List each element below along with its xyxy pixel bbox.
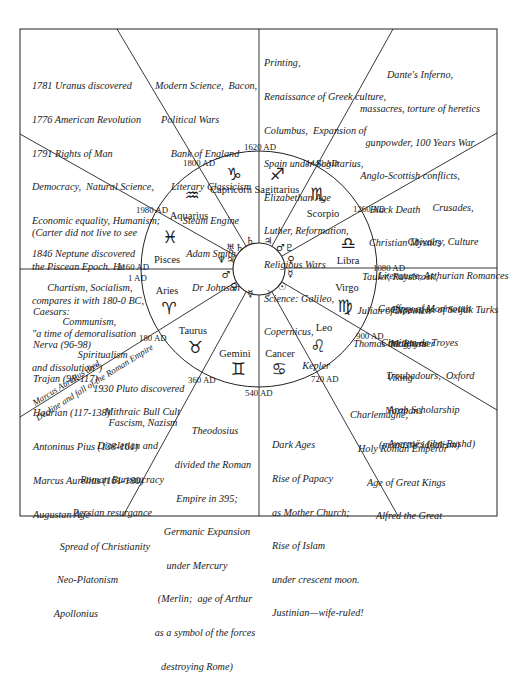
era-line: Antoninus Pius (138-161) bbox=[33, 441, 144, 452]
era-line: Viking bbox=[382, 372, 498, 383]
era-line: Chivalry, Culture bbox=[378, 236, 498, 247]
era-line: destroying Rome) bbox=[150, 661, 260, 672]
era-line: Neo-Platonism bbox=[40, 574, 180, 585]
era-line: and dissolution") bbox=[32, 362, 144, 373]
era-line: as Mother Church; bbox=[272, 507, 364, 518]
gemini-icon: ♊ bbox=[230, 359, 245, 379]
era-line: Steam Engine bbox=[155, 215, 255, 226]
era-cancer-text: Dark Ages Rise of Papacy as Mother Churc… bbox=[272, 417, 364, 641]
era-line: Apollonius bbox=[40, 608, 180, 619]
era-line: under crescent moon. bbox=[272, 574, 364, 585]
era-line: Dark Ages bbox=[272, 439, 364, 450]
era-line: Alfred the Great bbox=[350, 510, 448, 521]
era-line: Rise of Islam bbox=[272, 540, 364, 551]
era-line: gunpowder, 100 Years War bbox=[340, 137, 500, 148]
era-line: Literature, Arthurian Romances bbox=[378, 270, 498, 281]
era-pisces-text: (Carter did not live to see the Piscean … bbox=[32, 205, 144, 395]
era-line: "a time of demoralisation bbox=[32, 328, 144, 339]
era-line: massacres, torture of heretics bbox=[340, 103, 500, 114]
era-line: Political Wars bbox=[155, 114, 255, 125]
taurus-icon: ♉ bbox=[187, 337, 202, 357]
era-line: Expansion of Seljuk Turks bbox=[382, 304, 498, 315]
era-line: Dr Johnson bbox=[155, 282, 255, 293]
era-line: Bank of England bbox=[155, 148, 255, 159]
era-line: Adam Smith bbox=[155, 248, 255, 259]
era-line: Dante's Inferno, bbox=[340, 69, 500, 80]
era-line: Rise of Papacy bbox=[272, 473, 364, 484]
era-line: Modern Science, Bacon, bbox=[155, 80, 255, 91]
era-line: Justinian—wife-ruled! bbox=[272, 607, 364, 618]
era-line: Marcus Aurelius (161-180) bbox=[33, 475, 144, 486]
era-capricorn-text: Modern Science, Bacon, Political Wars Ba… bbox=[155, 58, 255, 316]
era-line: Augustan Age bbox=[33, 509, 144, 520]
era-line: the Piscean Epoch. He bbox=[32, 261, 144, 272]
sign-gemini: Gemini bbox=[219, 348, 251, 359]
era-line: Hadrian (117-138) bbox=[33, 407, 144, 418]
era-line: Holy Roman Emperor bbox=[350, 443, 448, 454]
era-leo-text: Charlemagne, Holy Roman Emperor Age of G… bbox=[350, 387, 448, 544]
era-line: compares it with 180-0 BC, bbox=[32, 295, 144, 306]
date-360: 360 AD bbox=[188, 375, 216, 385]
era-line: Crusades, bbox=[378, 202, 498, 213]
era-line: Magyars bbox=[382, 338, 498, 349]
era-line: Age of Great Kings bbox=[350, 477, 448, 488]
era-line: Literary Classicism bbox=[155, 181, 255, 192]
era-line: Charlemagne, bbox=[350, 409, 448, 420]
era-line: (Carter did not live to see bbox=[32, 227, 144, 238]
